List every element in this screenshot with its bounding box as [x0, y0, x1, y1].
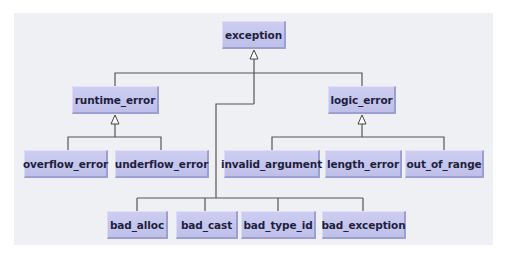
- node-overflow-error: overflow_error: [24, 150, 108, 178]
- node-underflow-error: underflow_error: [115, 150, 209, 178]
- node-bad-type-id: bad_type_id: [241, 211, 316, 239]
- node-invalid-argument: invalid_argument: [224, 150, 320, 178]
- inheritance-arrow-icon: [250, 50, 258, 59]
- node-runtime-error: runtime_error: [72, 86, 159, 114]
- node-bad-cast: bad_cast: [176, 211, 238, 239]
- node-bad-alloc: bad_alloc: [107, 211, 168, 239]
- node-length-error: length_error: [325, 150, 402, 178]
- inheritance-arrow-icon: [358, 115, 366, 124]
- node-bad-exception: bad_exception: [322, 211, 406, 239]
- node-out-of-range: out_of_range: [405, 150, 484, 178]
- node-exception: exception: [222, 21, 286, 49]
- node-logic-error: logic_error: [328, 86, 396, 114]
- inheritance-arrow-icon: [111, 115, 119, 124]
